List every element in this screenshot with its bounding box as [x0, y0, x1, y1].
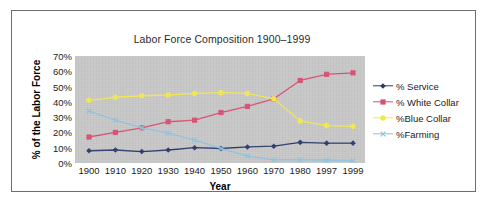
data-point-marker	[113, 130, 118, 135]
chart-frame: Labor Force Composition 1900–1999 % of t…	[11, 10, 476, 192]
data-point-marker	[218, 110, 223, 115]
data-point-marker	[298, 78, 303, 83]
data-point-marker	[380, 99, 385, 104]
legend-label: %Blue Collar	[396, 113, 451, 124]
x-tick-label: 1970	[263, 165, 284, 176]
series-canvas	[75, 56, 365, 163]
data-point-marker	[166, 92, 171, 97]
chart-title: Labor Force Composition 1900–1999	[72, 33, 372, 45]
data-point-marker	[350, 124, 355, 129]
data-point-marker	[139, 149, 145, 155]
plot-area	[75, 56, 365, 163]
data-point-marker	[380, 115, 385, 120]
data-point-marker	[324, 140, 330, 146]
legend-key-diamond-icon	[373, 80, 393, 92]
data-point-marker	[324, 123, 329, 128]
data-point-marker	[245, 144, 251, 150]
data-point-marker	[245, 104, 250, 109]
y-tick-label: 0%	[44, 158, 72, 169]
data-point-marker	[380, 83, 386, 89]
data-point-marker	[297, 140, 303, 146]
data-point-marker	[271, 96, 276, 101]
series-line	[89, 111, 353, 161]
legend-item[interactable]: % White Collar	[373, 94, 483, 110]
legend-label: %Farming	[396, 129, 439, 140]
data-point-marker	[166, 119, 171, 124]
y-axis-title: % of the Labor Force	[30, 55, 44, 163]
chart-page: Labor Force Composition 1900–1999 % of t…	[0, 0, 488, 203]
series-farming	[87, 109, 356, 163]
x-tick-label: 1900	[78, 165, 99, 176]
data-point-marker	[86, 148, 92, 154]
x-axis-tick-labels: 1900191019201930194019501960197019801997…	[75, 165, 365, 179]
y-tick-label: 70%	[44, 51, 72, 62]
legend-key-square-icon	[373, 96, 393, 108]
data-point-marker	[165, 147, 171, 153]
y-tick-label: 50%	[44, 81, 72, 92]
y-tick-label: 20%	[44, 127, 72, 138]
data-point-marker	[381, 132, 386, 137]
y-axis-tick-labels: 0%10%20%30%40%50%60%70%	[44, 51, 72, 167]
x-axis-title: Year	[75, 181, 365, 192]
x-tick-label: 1920	[131, 165, 152, 176]
series-service	[86, 140, 356, 155]
y-axis-title-text: % of the Labor Force	[32, 59, 43, 158]
data-point-marker	[350, 70, 355, 75]
legend-key-x-icon	[373, 128, 393, 140]
data-point-marker	[350, 140, 356, 146]
legend-item[interactable]: %Blue Collar	[373, 110, 483, 126]
data-point-marker	[324, 72, 329, 77]
legend-label: % White Collar	[396, 97, 459, 108]
y-tick-label: 10%	[44, 142, 72, 153]
data-point-marker	[113, 147, 119, 153]
legend-item[interactable]: % Service	[373, 78, 483, 94]
legend-label: % Service	[396, 81, 439, 92]
data-point-marker	[298, 118, 303, 123]
x-tick-label: 1940	[184, 165, 205, 176]
data-point-marker	[113, 95, 118, 100]
data-point-marker	[245, 91, 250, 96]
data-point-marker	[192, 118, 197, 123]
y-tick-label: 60%	[44, 66, 72, 77]
x-tick-label: 1960	[237, 165, 258, 176]
data-point-marker	[192, 145, 198, 151]
data-point-marker	[86, 134, 91, 139]
x-tick-label: 1980	[290, 165, 311, 176]
chart-legend: % Service% White Collar%Blue Collar%Farm…	[373, 78, 483, 142]
series-white-collar	[86, 70, 355, 139]
x-tick-label: 1997	[316, 165, 337, 176]
y-tick-label: 40%	[44, 96, 72, 107]
series-line	[89, 73, 353, 137]
data-point-marker	[218, 90, 223, 95]
x-tick-label: 1910	[105, 165, 126, 176]
x-tick-label: 1950	[210, 165, 231, 176]
data-point-marker	[86, 98, 91, 103]
data-point-marker	[139, 93, 144, 98]
x-tick-label: 1999	[342, 165, 363, 176]
data-point-marker	[271, 143, 277, 149]
legend-key-circle-icon	[373, 112, 393, 124]
series-line	[89, 93, 353, 127]
x-tick-label: 1930	[158, 165, 179, 176]
y-tick-label: 30%	[44, 112, 72, 123]
legend-item[interactable]: %Farming	[373, 126, 483, 142]
data-point-marker	[192, 91, 197, 96]
